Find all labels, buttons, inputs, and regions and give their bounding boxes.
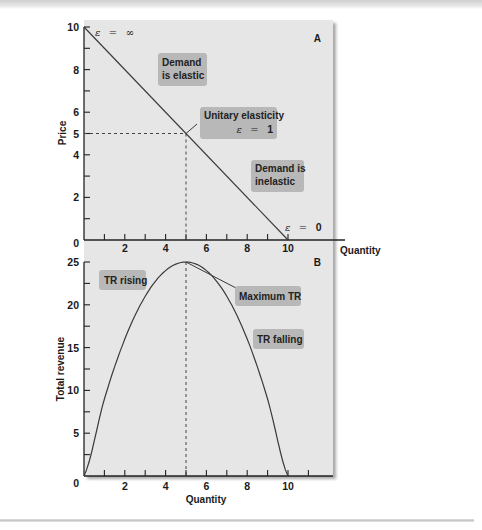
panel-a-y-label-0: 0 — [73, 237, 79, 249]
panel-a-y-label-5: 5 — [73, 128, 79, 140]
panel-a-x-label-2: 2 — [122, 242, 128, 254]
tr-rising-label: TR rising — [104, 275, 147, 286]
panel-b-y-axis-title: Total revenue — [55, 336, 66, 401]
panel-b-y-label-25: 25 — [67, 256, 79, 268]
panel-b-x-label-4: 4 — [163, 480, 169, 492]
panel-a-x-axis-title: Quantity — [340, 245, 381, 256]
panel-a-x-label-6: 6 — [203, 242, 209, 254]
panel-b-y-label-10: 10 — [67, 384, 79, 396]
panel-b-y-label-5: 5 — [73, 427, 79, 439]
inelastic-label-line1: Demand is — [255, 163, 306, 174]
panel-a-y-axis-title: Price — [57, 120, 68, 145]
panel-a-y-label-10: 10 — [67, 21, 79, 33]
panel-b-y-label-0: 0 — [73, 477, 79, 489]
panel-b-x-label-8: 8 — [244, 480, 250, 492]
panel-a-y-label-4: 4 — [73, 149, 79, 161]
panel-a-x-label-4: 4 — [163, 242, 169, 254]
panel-b-y-label-20: 20 — [67, 299, 79, 311]
panel-a-y-label-6: 6 — [73, 106, 79, 118]
elasticity-total-revenue-figure: A 10 8 6 5 4 2 0 Price — [0, 0, 482, 530]
panel-a-letter: A — [314, 33, 321, 44]
panel-b-x-label-6: 6 — [203, 480, 209, 492]
panel-a-x-label-10: 10 — [282, 242, 294, 254]
panel-b-y-label-15: 15 — [67, 342, 79, 354]
elastic-label-line1: Demand — [162, 57, 201, 68]
panel-a-y-label-8: 8 — [73, 64, 79, 76]
tr-falling-label: TR falling — [257, 334, 303, 345]
panel-b-x-label-2: 2 — [122, 480, 128, 492]
max-tr-label: Maximum TR — [239, 291, 302, 302]
panel-b-x-label-10: 10 — [282, 480, 294, 492]
panel-a-y-label-2: 2 — [73, 191, 79, 203]
panel-b-letter: B — [314, 257, 321, 268]
panel-a-x-label-8: 8 — [244, 242, 250, 254]
bottom-divider-rule — [0, 519, 474, 522]
elastic-label-line2: is elastic — [162, 70, 205, 81]
panel-b-x-axis-title: Quantity — [186, 494, 227, 505]
inelastic-label-line2: inelastic — [255, 176, 295, 187]
